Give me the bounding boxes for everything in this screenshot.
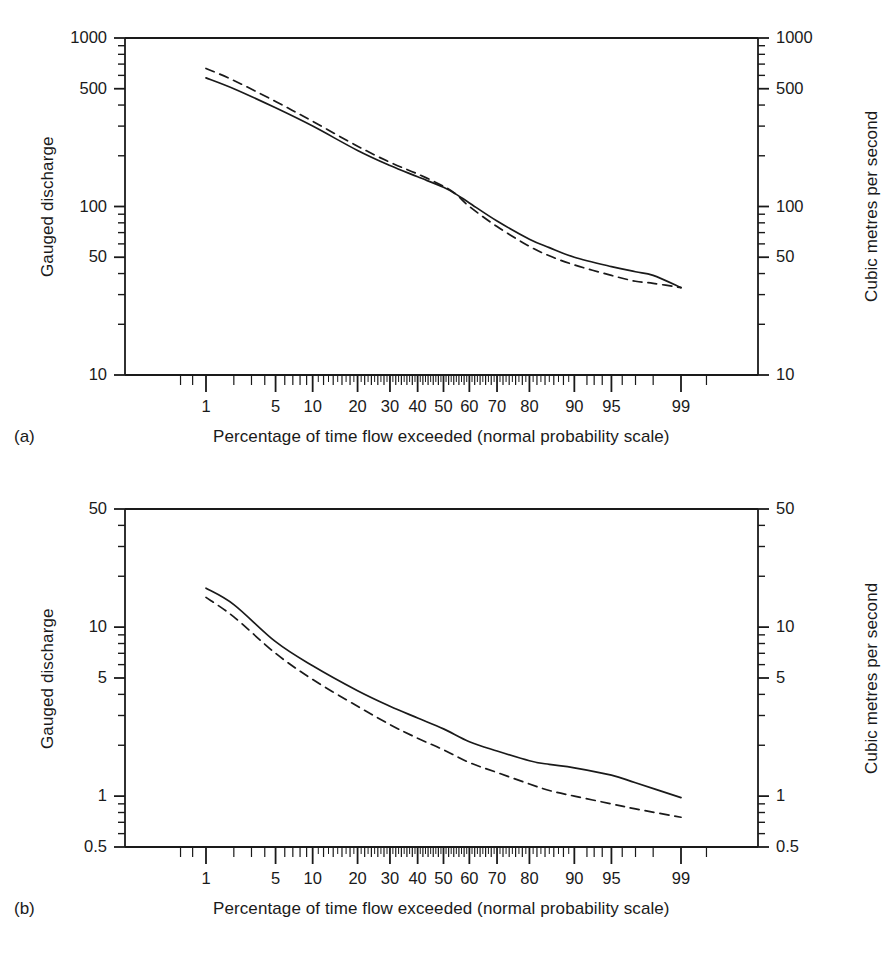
x-axis-title-b: Percentage of time flow exceeded (normal… [213, 899, 670, 919]
y-tick-label-right: 10 [776, 365, 794, 384]
y-tick-label-left: 50 [35, 499, 107, 518]
x-tick-label: 95 [585, 397, 637, 416]
x-tick-label: 1 [180, 397, 232, 416]
data-series-group [206, 68, 681, 287]
panel-letter-b: (b) [14, 899, 35, 919]
y-axis-title-right-b: Cubic metres per second [862, 582, 882, 773]
chart-panel-b: Gauged discharge Cubic metres per second… [0, 478, 891, 957]
y-tick-label-left: 10 [35, 365, 107, 384]
series-line-solid [206, 78, 681, 288]
y-tick-label-right: 500 [776, 79, 804, 98]
y-axis-title-right-a: Cubic metres per second [862, 111, 882, 302]
y-axis-ticks [114, 38, 769, 375]
chart-panel-a: Gauged discharge Cubic metres per second… [0, 0, 891, 478]
axis-frame [125, 38, 758, 375]
y-axis-ticks [114, 509, 769, 847]
x-tick-label: 1 [180, 869, 232, 888]
series-line-dashed [206, 597, 681, 817]
y-tick-label-left: 100 [35, 197, 107, 216]
x-axis-ticks [181, 847, 707, 864]
y-tick-label-left: 1 [35, 786, 107, 805]
x-tick-label: 99 [655, 869, 707, 888]
x-axis-title-a: Percentage of time flow exceeded (normal… [213, 427, 670, 447]
y-tick-label-left: 5 [35, 668, 107, 687]
y-tick-label-left: 10 [35, 617, 107, 636]
axis-frame [125, 509, 758, 847]
data-series-group [206, 588, 681, 817]
x-tick-label: 99 [655, 397, 707, 416]
panel-letter-a: (a) [14, 427, 35, 447]
y-tick-label-left: 500 [35, 79, 107, 98]
y-tick-label-right: 0.5 [776, 837, 799, 856]
y-tick-label-right: 1000 [776, 28, 813, 47]
y-tick-label-right: 1 [776, 786, 785, 805]
x-tick-label: 95 [585, 869, 637, 888]
y-tick-label-right: 10 [776, 617, 794, 636]
y-tick-label-right: 5 [776, 668, 785, 687]
y-tick-label-left: 1000 [35, 28, 107, 47]
y-tick-label-left: 0.5 [35, 837, 107, 856]
series-line-solid [206, 588, 681, 797]
y-tick-label-left: 50 [35, 247, 107, 266]
y-tick-label-right: 50 [776, 499, 794, 518]
x-axis-ticks [181, 375, 707, 392]
y-tick-label-right: 50 [776, 247, 794, 266]
series-line-dashed [206, 68, 681, 287]
y-tick-label-right: 100 [776, 197, 804, 216]
